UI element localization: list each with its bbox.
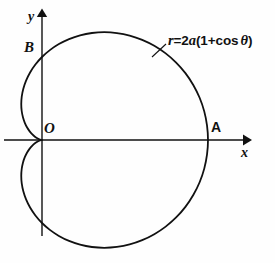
- y-axis-label: y: [28, 10, 34, 24]
- origin-label: O: [44, 121, 55, 136]
- equation-a-symbol: a: [189, 32, 196, 48]
- cardioid-figure: y x O A B r=2a(1+cosθ): [0, 0, 275, 263]
- equation-coefficient: 2: [181, 33, 188, 48]
- y-axis-arrow-icon: [37, 9, 47, 18]
- point-label-a: A: [211, 120, 221, 134]
- x-axis-arrow-icon: [243, 135, 252, 146]
- x-axis-label: x: [241, 146, 248, 160]
- point-label-b: B: [24, 40, 34, 55]
- equation-label: r=2a(1+cosθ): [168, 32, 252, 49]
- equation-open-paren: (1+cos: [196, 33, 239, 48]
- equation-theta-symbol: θ: [238, 32, 247, 48]
- equation-close-paren: ): [248, 33, 252, 48]
